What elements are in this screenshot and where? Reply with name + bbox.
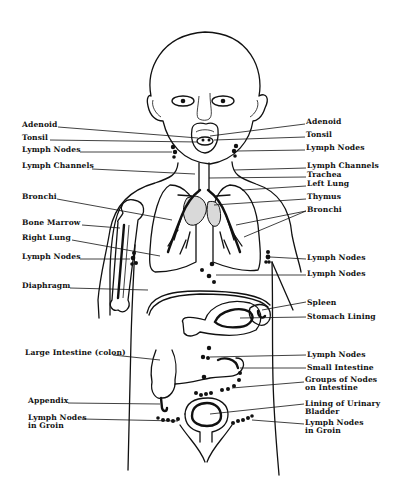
label-left-lung: Left Lung (307, 180, 349, 188)
label-spleen: Spleen (307, 299, 336, 307)
bladder-outline (185, 398, 228, 442)
label-lymph-nodes-neck-right: Lymph Nodes (306, 144, 365, 152)
label-large-intestine: Large Intestine (colon) (25, 349, 126, 357)
label-lymph-channels-right: Lymph Channels (307, 162, 379, 170)
colon-outline (151, 350, 176, 398)
label-tonsil-left: Tonsil (22, 134, 48, 142)
label-appendix: Appendix (28, 397, 68, 405)
label-stomach-lining: Stomach Lining (307, 313, 376, 321)
label-bladder-lining: Lining of Urinary Bladder (305, 400, 380, 416)
left-lung-outline (213, 185, 260, 271)
label-trachea: Trachea (307, 171, 342, 179)
leader-lines-right (209, 124, 306, 424)
label-lymph-nodes-armpit-right: Lymph Nodes (307, 254, 366, 262)
upper-abdominal-lymph-nodes (200, 262, 216, 284)
label-bone-marrow: Bone Marrow (22, 219, 81, 227)
label-adenoid-left: Adenoid (22, 121, 58, 129)
label-right-lung: Right Lung (22, 234, 71, 242)
label-lymph-nodes-groin-right: Lymph Nodes in Groin (305, 419, 364, 435)
stomach-outline (183, 301, 261, 336)
label-lymph-nodes-armpit-left: Lymph Nodes (22, 253, 81, 261)
intestine-lymph-nodes (194, 346, 242, 397)
label-bronchi-right: Bronchi (307, 206, 342, 214)
label-lymph-channels-left: Lymph Channels (22, 162, 94, 170)
bronchi-tree (168, 190, 242, 254)
neck-lymph-nodes (171, 144, 238, 159)
lymphatic-diagram: Adenoid Tonsil Lymph Nodes Lymph Channel… (0, 0, 400, 491)
label-lymph-nodes-neck-left: Lymph Nodes (22, 146, 81, 154)
label-adenoid-right: Adenoid (306, 118, 342, 126)
bone-marrow-drawing (110, 200, 143, 312)
label-diaphragm: Diaphragm (22, 282, 70, 290)
appendix-drawing (161, 398, 167, 411)
label-lymph-nodes-intestine-right: Lymph Nodes (307, 351, 366, 359)
thymus-gland (183, 196, 206, 225)
label-thymus: Thymus (307, 193, 341, 201)
label-tonsil-right: Tonsil (306, 131, 332, 139)
groin-lymph-nodes (156, 414, 254, 425)
label-lymph-nodes-groin-left: Lymph Nodes in Groin (28, 414, 87, 430)
label-groups-of-nodes: Groups of Nodes on Intestine (305, 376, 377, 392)
label-small-intestine: Small Intestine (307, 364, 374, 372)
label-lymph-nodes-abdomen-right: Lymph Nodes (307, 270, 366, 278)
armpit-lymph-nodes (130, 250, 271, 266)
label-bronchi-left: Bronchi (22, 193, 57, 201)
